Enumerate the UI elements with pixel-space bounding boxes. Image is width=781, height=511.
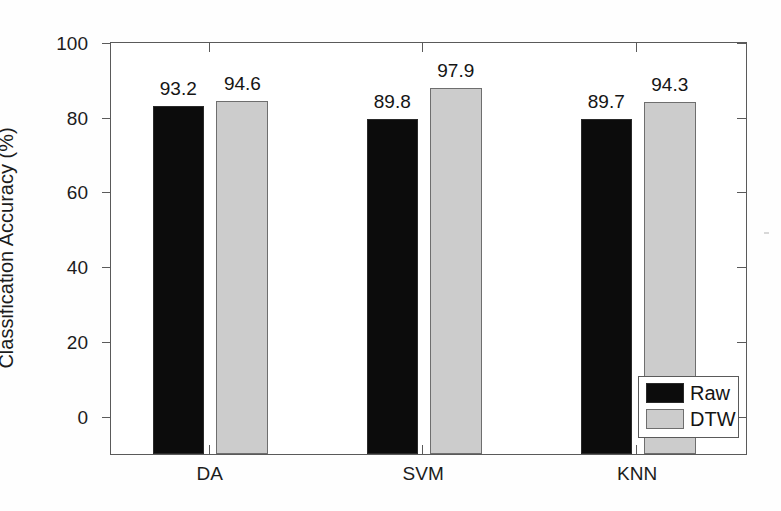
bar-value-label: 97.9: [437, 60, 474, 82]
bar-value-label: 94.3: [651, 74, 688, 96]
bar-value-label: 89.7: [588, 91, 625, 113]
y-tick-label: 40: [67, 257, 88, 279]
x-tick-label-da: DA: [197, 463, 223, 485]
x-tick-label-knn: KNN: [617, 463, 657, 485]
plot-area: 100 80 60 40 20 0 DA SVM KNN 93.2: [110, 42, 747, 455]
bar-chart-figure: Classification Accuracy (%) 100 80 60 40…: [0, 0, 781, 511]
y-tick-label: 0: [77, 407, 88, 429]
scan-artifact: [764, 232, 769, 234]
chart-legend: Raw DTW: [638, 376, 739, 438]
legend-label-raw: Raw: [690, 383, 730, 403]
y-axis-title: Classification Accuracy (%): [0, 127, 18, 368]
bar-raw-svm: 89.8: [367, 119, 418, 454]
bar-raw-knn: 89.7: [581, 119, 632, 454]
y-tick-label: 60: [67, 182, 88, 204]
y-tick-label: 100: [56, 33, 88, 55]
bar-raw-da: 93.2: [153, 106, 204, 454]
legend-entry-raw: Raw: [646, 383, 730, 403]
legend-label-dtw: DTW: [690, 409, 736, 429]
bar-dtw-svm: 97.9: [430, 88, 482, 454]
legend-entry-dtw: DTW: [646, 409, 736, 429]
x-tick-label-svm: SVM: [403, 463, 444, 485]
bar-dtw-da: 94.6: [216, 101, 268, 454]
bar-value-label: 94.6: [224, 73, 261, 95]
legend-swatch-dtw-icon: [646, 409, 684, 429]
y-tick-label: 80: [67, 108, 88, 130]
bar-value-label: 93.2: [160, 78, 197, 100]
legend-swatch-raw-icon: [646, 383, 684, 403]
y-tick-label: 20: [67, 332, 88, 354]
bar-value-label: 89.8: [374, 91, 411, 113]
